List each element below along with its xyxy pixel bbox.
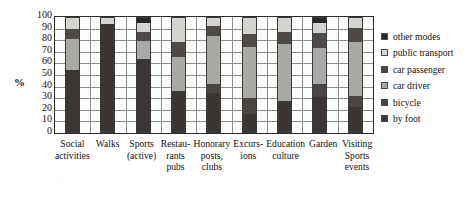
bar-segment: [137, 32, 150, 41]
x-axis-label: Excurs-ions: [231, 138, 265, 198]
bar-segment: [313, 84, 326, 97]
legend-label: public transport: [393, 47, 453, 58]
x-axis-label-line: ions: [232, 150, 264, 162]
legend-label: car driver: [393, 80, 430, 91]
y-axis-tick: 40: [26, 81, 52, 89]
bar-segment: [313, 33, 326, 48]
chart-figure: % 1009080706050403020100 Socialactivitie…: [0, 0, 471, 203]
bar-slot: [338, 17, 373, 133]
stacked-bar[interactable]: [242, 17, 257, 133]
bar-segment: [243, 18, 256, 34]
stacked-bar[interactable]: [100, 17, 115, 133]
x-axis-label-line: events: [341, 161, 373, 173]
bar-series-container: [55, 17, 373, 133]
x-axis-label-line: Education: [266, 138, 305, 150]
bar-segment: [137, 59, 150, 132]
legend-item[interactable]: public transport: [381, 45, 469, 62]
bar-slot: [267, 17, 302, 133]
bar-segment: [349, 107, 362, 132]
y-axis-tick: 100: [26, 11, 52, 19]
bar-segment: [172, 18, 185, 42]
bar-segment: [207, 36, 220, 84]
x-axis-label: Garden: [306, 138, 340, 198]
bar-segment: [349, 28, 362, 42]
stacked-bar[interactable]: [277, 17, 292, 133]
y-axis-tick: 70: [26, 46, 52, 54]
bar-segment: [278, 44, 291, 101]
stacked-bar[interactable]: [348, 17, 363, 133]
legend-item[interactable]: by foot: [381, 111, 469, 128]
legend-swatch-icon: [381, 99, 388, 106]
legend-swatch-icon: [381, 66, 388, 73]
bar-segment: [172, 42, 185, 57]
x-axis-label-line: (active): [126, 150, 158, 162]
y-axis-tick: 0: [26, 127, 52, 135]
x-axis-label-line: clubs: [194, 161, 231, 173]
x-axis-label-line: activities: [55, 150, 90, 162]
bar-segment: [66, 39, 79, 71]
legend-swatch-icon: [381, 82, 388, 89]
bar-segment: [349, 96, 362, 107]
stacked-bar[interactable]: [136, 17, 151, 133]
bar-slot: [302, 17, 337, 133]
x-axis-label: Educationculture: [265, 138, 306, 198]
bar-segment: [243, 47, 256, 98]
legend-item[interactable]: car passenger: [381, 61, 469, 78]
legend-label: other modes: [393, 31, 440, 42]
bar-segment: [243, 34, 256, 47]
legend-swatch-icon: [381, 49, 388, 56]
x-axis-label-line: posts,: [194, 150, 231, 162]
x-axis-label-line: Honorary: [194, 138, 231, 150]
stacked-bar[interactable]: [171, 17, 186, 133]
x-axis-label-line: Restau-: [160, 138, 192, 150]
y-axis-unit-label: %: [14, 76, 25, 88]
x-axis-label-line: Visiting: [341, 138, 373, 150]
bar-segment: [278, 32, 291, 45]
bar-segment: [172, 91, 185, 132]
bar-segment: [313, 23, 326, 33]
bar-segment: [207, 18, 220, 26]
x-axis-label-line: Sports: [341, 150, 373, 162]
x-axis-label: Sports(active): [125, 138, 159, 198]
legend-item[interactable]: bicycle: [381, 94, 469, 111]
bar-segment: [349, 42, 362, 96]
bar-slot: [90, 17, 125, 133]
x-axis-label-line: pubs: [160, 161, 192, 173]
plot-frame: [54, 16, 374, 134]
x-axis-label-line: Excurs-: [232, 138, 264, 150]
x-axis-label: Socialactivities: [54, 138, 91, 198]
bar-segment: [101, 24, 114, 132]
legend-label: by foot: [393, 113, 420, 124]
bar-segment: [66, 29, 79, 38]
bar-segment: [278, 101, 291, 132]
x-axis-label-line: culture: [266, 150, 305, 162]
bar-slot: [161, 17, 196, 133]
x-axis-label-line: Sports: [126, 138, 158, 150]
y-axis-tick: 90: [26, 23, 52, 31]
x-axis-label: Restau-rantspubs: [159, 138, 193, 198]
chart-legend: other modespublic transportcar passenger…: [381, 28, 469, 127]
legend-item[interactable]: car driver: [381, 78, 469, 95]
plot-area: % 1009080706050403020100 Socialactivitie…: [0, 0, 471, 203]
stacked-bar[interactable]: [65, 17, 80, 133]
bar-slot: [126, 17, 161, 133]
bar-segment: [66, 70, 79, 132]
legend-label: car passenger: [393, 64, 445, 75]
bar-slot: [232, 17, 267, 133]
stacked-bar[interactable]: [206, 17, 221, 133]
y-axis-tick: 80: [26, 34, 52, 42]
y-axis-tick: 60: [26, 57, 52, 65]
x-axis-label: Walks: [91, 138, 125, 198]
x-axis-label: Honoraryposts,clubs: [193, 138, 232, 198]
x-axis-label-line: Garden: [307, 138, 339, 150]
bar-segment: [313, 97, 326, 132]
x-axis-label-line: Walks: [92, 138, 124, 150]
bar-slot: [55, 17, 90, 133]
bar-segment: [172, 57, 185, 91]
legend-item[interactable]: other modes: [381, 28, 469, 45]
bar-slot: [196, 17, 231, 133]
stacked-bar[interactable]: [312, 17, 327, 133]
x-axis-label: VisitingSportsevents: [340, 138, 374, 198]
bar-segment: [137, 23, 150, 32]
bar-segment: [243, 98, 256, 114]
